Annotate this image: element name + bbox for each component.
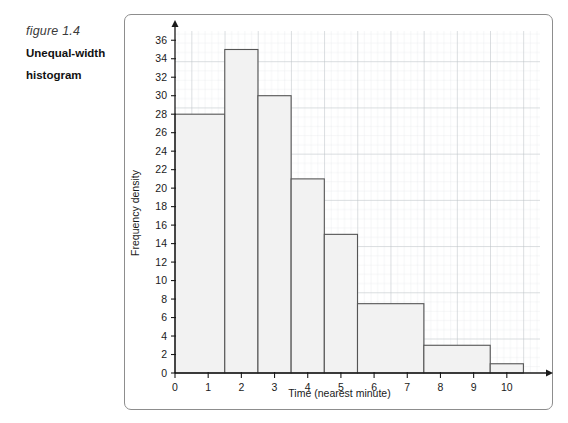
figure-frame: 0246810121416182022242628303234360123456… — [124, 14, 553, 410]
svg-text:8: 8 — [161, 293, 167, 305]
svg-text:4: 4 — [161, 330, 167, 342]
histogram-bar-2 — [258, 96, 291, 373]
figure-title-line-1: Unequal-width — [26, 45, 118, 62]
histogram-bar-1 — [225, 49, 258, 373]
histogram-bar-7 — [490, 364, 523, 373]
figure-caption: figure 1.4 Unequal-width histogram — [26, 22, 118, 83]
figure-root: figure 1.4 Unequal-width histogram 02468… — [0, 0, 568, 423]
histogram-bar-6 — [424, 345, 490, 373]
svg-text:6: 6 — [161, 311, 167, 323]
histogram-bar-5 — [358, 304, 424, 373]
histogram-bar-3 — [291, 179, 324, 373]
svg-text:26: 26 — [155, 126, 167, 138]
histogram-bar-4 — [324, 234, 357, 373]
plot-area: 0246810121416182022242628303234360123456… — [125, 15, 554, 411]
histogram-chart: 0246810121416182022242628303234360123456… — [125, 15, 554, 411]
svg-text:16: 16 — [155, 219, 167, 231]
y-axis-ticks: 024681012141618202224262830323436 — [155, 34, 176, 379]
histogram-bar-0 — [175, 114, 225, 373]
svg-text:12: 12 — [155, 256, 167, 268]
svg-text:0: 0 — [161, 367, 167, 379]
svg-text:32: 32 — [155, 71, 167, 83]
y-axis-title: Frequency density — [128, 15, 142, 411]
svg-text:20: 20 — [155, 182, 167, 194]
svg-text:10: 10 — [155, 274, 167, 286]
svg-text:24: 24 — [155, 145, 167, 157]
svg-text:36: 36 — [155, 34, 167, 46]
svg-text:28: 28 — [155, 108, 167, 120]
svg-text:22: 22 — [155, 163, 167, 175]
svg-text:14: 14 — [155, 237, 167, 249]
svg-text:18: 18 — [155, 200, 167, 212]
svg-text:30: 30 — [155, 89, 167, 101]
figure-title-line-2: histogram — [26, 67, 118, 84]
x-axis-title: Time (nearest minute) — [125, 387, 554, 399]
svg-text:34: 34 — [155, 52, 167, 64]
svg-text:2: 2 — [161, 348, 167, 360]
y-axis-title-text: Frequency density — [129, 170, 141, 256]
figure-number: figure 1.4 — [26, 22, 118, 40]
